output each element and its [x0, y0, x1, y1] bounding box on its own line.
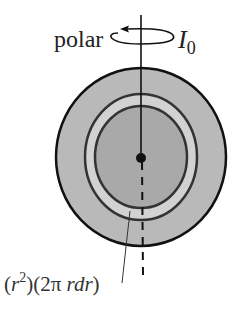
- differential-formula: (r2)(2π rdr): [4, 270, 100, 297]
- formula-open: (: [4, 272, 11, 296]
- polar-moment-label: I0: [178, 25, 196, 59]
- rotation-arrow-icon: [111, 26, 174, 45]
- moment-subscript: 0: [187, 38, 196, 58]
- formula-mid: )(2π: [26, 272, 66, 296]
- formula-close: ): [93, 272, 100, 296]
- formula-rdr: rdr: [67, 272, 93, 296]
- polar-axis-label: polar: [54, 26, 103, 53]
- moment-symbol: I: [178, 25, 187, 54]
- formula-r: r: [11, 272, 19, 296]
- center-dot: [136, 153, 146, 163]
- polar-moment-diagram: [0, 0, 247, 313]
